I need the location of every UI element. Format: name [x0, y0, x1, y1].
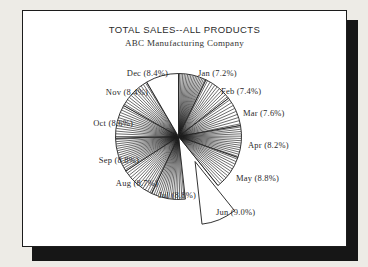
slice-label-oct: Oct (8.6%) [93, 118, 133, 128]
slice-label-dec: Dec (8.4%) [127, 68, 168, 78]
slice-label-jul: Jul (8.8%) [159, 190, 196, 200]
slice-label-jun: Jun (9.0%) [216, 207, 255, 217]
chart-page: TOTAL SALES--ALL PRODUCTS ABC Manufactur… [22, 10, 347, 247]
slice-label-aug: Aug (8.7%) [116, 178, 158, 188]
slice-label-mar: Mar (7.6%) [243, 108, 285, 118]
scanned-chart-page: TOTAL SALES--ALL PRODUCTS ABC Manufactur… [0, 0, 368, 267]
slice-label-may: May (8.8%) [236, 173, 279, 183]
slice-label-feb: Feb (7.4%) [221, 86, 261, 96]
slice-label-jan: Jan (7.2%) [198, 68, 237, 78]
pie-chart: Jan (7.2%)Feb (7.4%)Mar (7.6%)Apr (8.2%)… [23, 11, 348, 248]
slice-label-sep: Sep (8.8%) [99, 155, 139, 165]
slice-label-apr: Apr (8.2%) [248, 140, 289, 150]
slice-label-nov: Nov (8.4%) [106, 87, 148, 97]
